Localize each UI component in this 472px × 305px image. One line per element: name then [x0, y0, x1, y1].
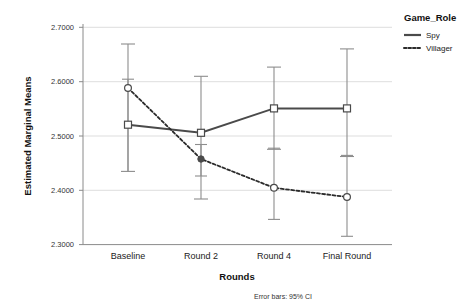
legend: Game_Role Spy Villager — [404, 12, 456, 53]
markers-villager — [125, 85, 351, 201]
y-tick-label-2p6: 2.6000 — [51, 77, 74, 86]
marker-villager-final — [344, 194, 351, 201]
legend-item-spy[interactable]: Spy — [404, 31, 440, 40]
y-tick-label-2p5: 2.5000 — [51, 132, 74, 141]
series-line-villager — [128, 88, 347, 197]
y-axis-title: Estimated Marginal Means — [22, 76, 33, 195]
marker-spy-final — [344, 105, 351, 112]
marker-villager-round4 — [271, 184, 278, 191]
y-tick-marks — [79, 27, 83, 244]
legend-label-villager: Villager — [426, 44, 453, 53]
x-axis-title: Rounds — [219, 271, 254, 282]
legend-title: Game_Role — [404, 12, 456, 23]
chart-svg: 2.7000 2.6000 2.5000 2.4000 2.3000 Estim… — [0, 0, 472, 305]
marker-spy-baseline — [125, 121, 132, 128]
marker-villager-baseline — [125, 85, 132, 92]
estimated-marginal-means-chart: 2.7000 2.6000 2.5000 2.4000 2.3000 Estim… — [0, 0, 472, 305]
x-cat-label-final-round: Final Round — [323, 251, 372, 261]
marker-spy-round2 — [198, 129, 205, 136]
x-cat-label-round4: Round 4 — [257, 251, 291, 261]
marker-spy-round4 — [271, 105, 278, 112]
y-tick-label-2p3: 2.3000 — [51, 240, 74, 249]
y-tick-label-2p4: 2.4000 — [51, 186, 74, 195]
error-bars-villager — [122, 79, 353, 236]
x-cat-label-baseline: Baseline — [111, 251, 146, 261]
x-cat-label-round2: Round 2 — [184, 251, 218, 261]
y-tick-label-2p7: 2.7000 — [51, 23, 74, 32]
error-bars-footnote: Error bars: 95% CI — [254, 293, 312, 300]
legend-label-spy: Spy — [426, 31, 440, 40]
marker-villager-round2 — [198, 156, 204, 162]
legend-item-villager[interactable]: Villager — [404, 44, 453, 53]
